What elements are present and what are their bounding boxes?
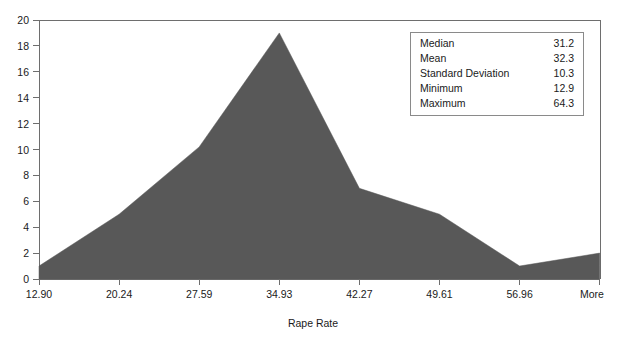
- stats-row-value: 31.2: [554, 37, 575, 49]
- stats-row-value: 64.3: [554, 97, 575, 109]
- area-chart-plot: 0 2 4 6 8 10 12 14 16 18 20 12: [0, 0, 617, 341]
- y-tick-label: 12: [17, 118, 29, 130]
- stats-row-label: Median: [420, 37, 455, 49]
- y-tick-label: 8: [23, 169, 29, 181]
- x-tick-label: More: [580, 288, 604, 300]
- y-tick-label: 14: [17, 92, 29, 104]
- stats-row-label: Mean: [420, 52, 446, 64]
- x-tick-label: 42.27: [346, 288, 372, 300]
- y-axis-ticks: 0 2 4 6 8 10 12 14 16 18 20: [17, 14, 39, 285]
- x-axis-ticks: 12.90 20.24 27.59 34.93 42.27 49.61 56.9…: [26, 279, 604, 300]
- y-tick-label: 20: [17, 14, 29, 26]
- x-tick-label: 12.90: [26, 288, 52, 300]
- x-axis-title: Rape Rate: [288, 317, 338, 329]
- y-tick-label: 18: [17, 40, 29, 52]
- y-tick-label: 10: [17, 144, 29, 156]
- x-tick-label: 49.61: [426, 288, 452, 300]
- x-tick-label: 34.93: [266, 288, 292, 300]
- stats-row-value: 12.9: [554, 82, 575, 94]
- y-tick-label: 0: [23, 273, 29, 285]
- y-tick-label: 4: [23, 221, 29, 233]
- chart-container: 0 2 4 6 8 10 12 14 16 18 20 12: [0, 0, 617, 341]
- stats-row-label: Standard Deviation: [420, 67, 509, 79]
- x-tick-label: 27.59: [186, 288, 212, 300]
- stats-row-label: Maximum: [420, 97, 466, 109]
- y-tick-label: 2: [23, 247, 29, 259]
- y-tick-label: 6: [23, 195, 29, 207]
- stats-row-value: 32.3: [554, 52, 575, 64]
- stats-row-label: Minimum: [420, 82, 463, 94]
- x-tick-label: 20.24: [106, 288, 132, 300]
- stats-row-value: 10.3: [554, 67, 575, 79]
- stats-legend-box: Median 31.2 Mean 32.3 Standard Deviation…: [411, 33, 584, 116]
- y-tick-label: 16: [17, 66, 29, 78]
- x-tick-label: 56.96: [506, 288, 532, 300]
